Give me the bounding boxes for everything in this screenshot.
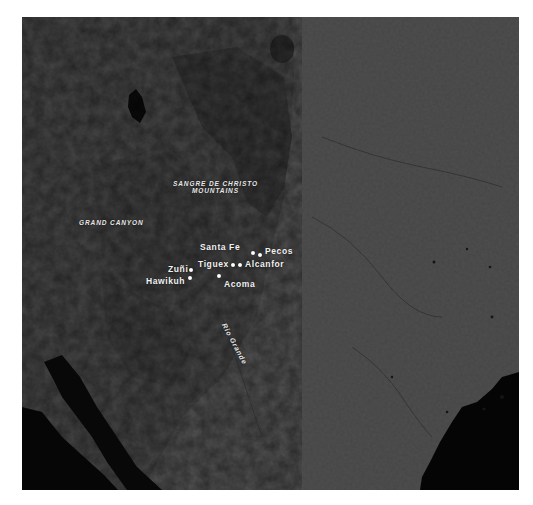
place-marker-zuni (189, 268, 193, 272)
place-marker-acoma (217, 274, 221, 278)
region-label-grand-canyon: GRAND CANYON (79, 219, 144, 226)
place-marker-hawikuh (188, 276, 192, 280)
place-marker-alcanfor (238, 263, 242, 267)
region-label-sangre-de-christo: SANGRE DE CHRISTO MOUNTAINS (173, 180, 258, 195)
place-label-alcanfor: Alcanfor (245, 260, 284, 269)
place-label-pecos: Pecos (265, 247, 293, 256)
place-label-tiguex: Tiguex (198, 260, 229, 269)
region-label-line: MOUNTAINS (173, 187, 258, 194)
place-label-santa-fe: Santa Fe (200, 243, 240, 252)
place-marker-tiguex (231, 263, 235, 267)
relief-map: SANGRE DE CHRISTO MOUNTAINS GRAND CANYON… (22, 17, 519, 490)
place-label-acoma: Acoma (224, 280, 255, 289)
region-label-line: GRAND CANYON (79, 219, 144, 226)
place-marker-santa-fe (251, 251, 255, 255)
place-label-hawikuh: Hawikuh (146, 277, 185, 286)
place-marker-pecos (258, 253, 262, 257)
place-label-zuni: Zuñi (168, 265, 188, 274)
